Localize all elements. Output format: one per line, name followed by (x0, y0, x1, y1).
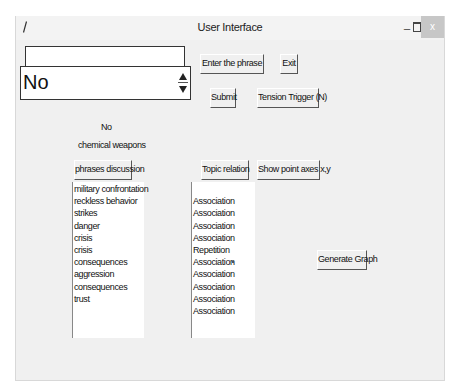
list-item[interactable]: military confrontation (73, 183, 144, 195)
window-title: User Interface (16, 21, 444, 33)
spin-down-arrow-icon[interactable] (179, 86, 187, 93)
topic-relation-button[interactable]: Topic relation (201, 160, 249, 180)
answer-spinbox[interactable]: No (20, 66, 191, 100)
exit-button[interactable]: Exit (280, 54, 298, 74)
list-item[interactable]: Association (192, 195, 255, 207)
enter-phrase-button[interactable]: Enter the phrase (200, 54, 264, 74)
phrases-listbox[interactable]: military confrontation reckless behavior… (72, 182, 144, 338)
list-item[interactable] (192, 183, 255, 195)
list-item[interactable]: Association (192, 281, 255, 293)
show-point-axes-button[interactable]: Show point axes x,y (257, 160, 320, 180)
list-item[interactable]: Association (192, 293, 255, 305)
list-item[interactable]: crisis (73, 232, 144, 244)
list-item[interactable]: consequences (73, 281, 144, 293)
list-item[interactable]: Association (192, 232, 255, 244)
title-bar: User Interface _ x (16, 16, 444, 40)
maximize-button[interactable] (413, 22, 421, 32)
list-item[interactable]: trust (73, 293, 144, 305)
spin-separator (178, 82, 188, 83)
spin-up-arrow-icon[interactable] (179, 73, 187, 80)
point-marker (232, 261, 234, 263)
minimize-button[interactable]: _ (401, 19, 413, 33)
answer-label: No (101, 122, 112, 132)
submit-button[interactable]: Submit (210, 88, 236, 108)
tension-trigger-button[interactable]: Tension Trigger (N) (257, 88, 319, 108)
close-button[interactable]: x (421, 16, 444, 38)
list-item[interactable]: Association (192, 220, 255, 232)
phrases-discussion-button[interactable]: phrases discussion (74, 160, 132, 180)
list-item[interactable]: Association (192, 268, 255, 280)
list-item[interactable]: aggression (73, 268, 144, 280)
list-item[interactable]: Association (192, 207, 255, 219)
list-item[interactable]: Association (192, 256, 255, 268)
list-item[interactable]: Association (192, 305, 255, 317)
spinbox-value: No (23, 71, 49, 94)
list-item[interactable]: Repetition (192, 244, 255, 256)
list-item[interactable]: crisis (73, 244, 144, 256)
relations-listbox[interactable]: Association Association Association Asso… (191, 182, 255, 338)
list-item[interactable]: consequences (73, 256, 144, 268)
list-item[interactable]: strikes (73, 207, 144, 219)
list-item[interactable]: reckless behavior (73, 195, 144, 207)
topic-label: chemical weapons (78, 140, 146, 150)
list-item[interactable]: danger (73, 220, 144, 232)
app-window: User Interface _ x No Enter the phrase E… (15, 16, 445, 381)
generate-graph-button[interactable]: Generate Graph (317, 250, 367, 270)
